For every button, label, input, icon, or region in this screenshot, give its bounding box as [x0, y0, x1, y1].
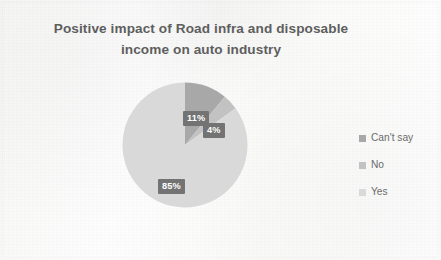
pie-svg	[118, 78, 252, 212]
pie-chart: Positive impact of Road infra and dispos…	[0, 0, 441, 260]
legend-label-yes: Yes	[371, 187, 388, 197]
pie-graphic	[118, 78, 252, 212]
chart-title-line-1: Positive impact of Road infra and dispos…	[36, 18, 366, 39]
legend-item-yes[interactable]: Yes	[359, 182, 413, 202]
chart-title-line-2: income on auto industry	[36, 39, 366, 60]
legend-item-cantsay[interactable]: Can't say	[359, 128, 413, 148]
legend-swatch-icon-yes	[359, 189, 366, 196]
chart-screenshot: Positive impact of Road infra and dispos…	[0, 0, 441, 260]
legend-label-cantsay: Can't say	[371, 133, 413, 143]
data-label-yes: 85%	[158, 179, 185, 194]
legend-label-no: No	[371, 160, 384, 170]
legend-swatch-icon-no	[359, 162, 366, 169]
chart-legend: Can't say No Yes	[359, 128, 413, 209]
legend-item-no[interactable]: No	[359, 155, 413, 175]
chart-title: Positive impact of Road infra and dispos…	[36, 18, 366, 60]
legend-swatch-icon-cantsay	[359, 135, 366, 142]
data-label-no: 4%	[203, 123, 225, 138]
